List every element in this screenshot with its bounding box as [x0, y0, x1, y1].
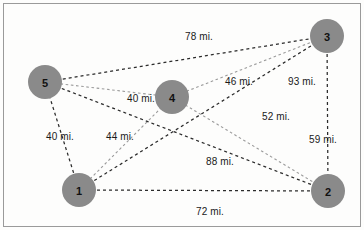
- graph-node-5[interactable]: 5: [28, 65, 62, 99]
- node-circle-3: [310, 19, 344, 53]
- graph-svg: 12345: [0, 0, 364, 230]
- graph-edge-4-3: [172, 36, 327, 97]
- edge-weight-label-5-4: 40 mi.: [127, 93, 155, 104]
- graph-edge-1-4: [79, 97, 172, 190]
- graph-node-3[interactable]: 3: [310, 19, 344, 53]
- graph-diagram-canvas: 12345 78 mi.40 mi.46 mi.93 mi.40 mi.44 m…: [0, 0, 364, 230]
- edge-weight-label-1-4: 44 mi.: [106, 131, 134, 142]
- edge-weight-label-1-3: 93 mi.: [288, 76, 316, 87]
- node-circle-4: [155, 80, 189, 114]
- graph-node-2[interactable]: 2: [311, 174, 345, 208]
- graph-edge-1-2: [79, 190, 328, 191]
- graph-node-1[interactable]: 1: [62, 173, 96, 207]
- node-circle-1: [62, 173, 96, 207]
- node-circle-5: [28, 65, 62, 99]
- graph-edge-5-3: [45, 36, 327, 82]
- node-circle-2: [311, 174, 345, 208]
- edge-weight-label-5-3: 78 mi.: [185, 31, 213, 42]
- edge-weight-label-1-2: 72 mi.: [196, 206, 224, 217]
- edge-weight-label-3-2: 59 mi.: [309, 134, 337, 145]
- graph-edge-3-2: [327, 36, 328, 191]
- edge-weight-label-4-3: 46 mi.: [225, 76, 253, 87]
- edge-weight-label-5-2: 88 mi.: [206, 156, 234, 167]
- graph-node-4[interactable]: 4: [155, 80, 189, 114]
- edge-weight-label-1-5: 40 mi.: [46, 131, 74, 142]
- edge-weight-label-4-2: 52 mi.: [262, 111, 290, 122]
- graph-edge-4-2: [172, 97, 328, 191]
